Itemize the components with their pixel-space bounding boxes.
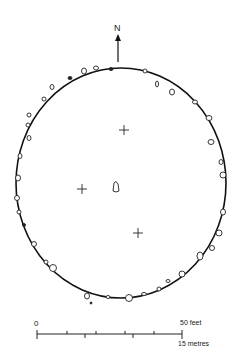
stone-circle-plan: [0, 0, 240, 363]
scale-feet-label: 50 feet: [180, 319, 201, 326]
survey-crosses: [77, 125, 143, 238]
scale-metres-label: 15 metres: [178, 340, 209, 347]
center-stone: [113, 182, 119, 192]
scale-zero-label: 0: [34, 319, 38, 328]
north-label: N: [114, 23, 121, 33]
north-arrow: [115, 34, 121, 62]
scale-bar: [37, 330, 182, 339]
